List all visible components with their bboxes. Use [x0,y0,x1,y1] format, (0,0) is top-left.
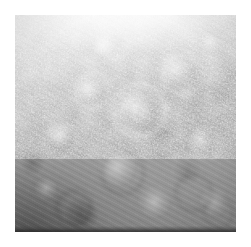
figure-root [0,0,251,247]
bottom-dark-band [15,226,236,232]
edge-vignette-layer [15,15,236,232]
micrograph-image-panel [15,15,236,232]
